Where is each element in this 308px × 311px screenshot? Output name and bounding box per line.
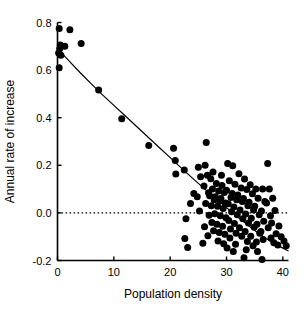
data-point	[259, 186, 266, 193]
y-tick-label: -0.2	[33, 255, 52, 267]
data-point	[283, 242, 290, 249]
data-point	[172, 171, 179, 178]
data-point	[255, 195, 262, 202]
y-tick-label: 0.4	[36, 112, 51, 124]
x-tick-label: 10	[108, 266, 120, 278]
data-point	[230, 203, 237, 210]
data-point	[253, 238, 260, 245]
data-point	[254, 248, 261, 255]
chart-canvas: -0.20.00.20.40.60.8 010203040 Population…	[0, 0, 308, 311]
data-point	[263, 199, 270, 206]
data-point	[247, 181, 254, 188]
data-point	[187, 200, 194, 207]
y-tick-label: 0.0	[36, 207, 51, 219]
data-point	[172, 157, 179, 164]
data-point	[224, 245, 231, 252]
x-tick-label: 30	[220, 266, 232, 278]
data-point	[182, 215, 189, 222]
data-point	[219, 223, 226, 230]
y-axis-tick-labels: -0.20.00.20.40.60.8	[33, 17, 52, 267]
data-point	[57, 52, 64, 59]
data-point	[266, 186, 273, 193]
data-point-markers	[55, 25, 290, 263]
data-point	[235, 170, 242, 177]
data-point	[208, 202, 215, 209]
data-point	[56, 25, 63, 32]
data-point	[248, 215, 255, 222]
data-point	[203, 139, 210, 146]
data-point	[251, 203, 258, 210]
y-tick-label: 0.6	[36, 64, 51, 76]
data-point	[195, 164, 202, 171]
data-point	[66, 26, 73, 33]
data-point	[209, 186, 216, 193]
data-point	[258, 208, 265, 215]
data-point	[268, 219, 275, 226]
data-point	[78, 40, 85, 47]
data-point	[247, 233, 254, 240]
data-point	[242, 228, 249, 235]
data-point	[253, 221, 260, 228]
x-tick-label: 20	[164, 266, 176, 278]
data-point	[170, 145, 177, 152]
data-point	[218, 172, 225, 179]
x-axis-tick-labels: 010203040	[54, 266, 289, 278]
data-point	[197, 173, 204, 180]
data-point	[242, 211, 249, 218]
data-point	[201, 223, 208, 230]
data-point	[199, 240, 206, 247]
data-point	[202, 162, 209, 169]
data-point	[232, 241, 239, 248]
y-axis-title: Annual rate of increase	[3, 79, 17, 203]
data-point	[230, 248, 237, 255]
y-tick-label: 0.2	[36, 159, 51, 171]
data-point	[56, 64, 63, 71]
data-point	[259, 256, 266, 263]
data-point	[145, 142, 152, 149]
data-point	[252, 186, 259, 193]
data-point	[229, 162, 236, 169]
data-point	[226, 234, 233, 241]
data-point	[196, 208, 203, 215]
data-point	[207, 175, 214, 182]
x-axis-title: Population density	[124, 287, 222, 301]
data-point	[260, 236, 267, 243]
data-point	[264, 160, 271, 167]
data-point	[257, 228, 264, 235]
data-point	[181, 167, 188, 174]
data-point	[231, 181, 238, 188]
data-point	[210, 168, 217, 175]
data-point	[190, 190, 197, 197]
scatter-plot-figure: -0.20.00.20.40.60.8 010203040 Population…	[0, 0, 308, 311]
data-point	[118, 115, 125, 122]
x-tick-label: 0	[54, 266, 60, 278]
data-point	[241, 176, 248, 183]
data-point	[181, 235, 188, 242]
data-point	[243, 246, 250, 253]
data-point	[200, 183, 207, 190]
y-tick-label: 0.8	[36, 17, 51, 29]
data-point	[269, 195, 276, 202]
data-point	[237, 207, 244, 214]
data-point	[204, 232, 211, 239]
data-point	[184, 244, 191, 251]
data-point	[271, 207, 278, 214]
data-point	[274, 242, 281, 249]
data-point	[260, 218, 267, 225]
data-point	[95, 87, 102, 94]
data-point	[246, 199, 253, 206]
x-tick-label: 40	[277, 266, 289, 278]
data-point	[275, 222, 282, 229]
data-point	[240, 254, 247, 261]
